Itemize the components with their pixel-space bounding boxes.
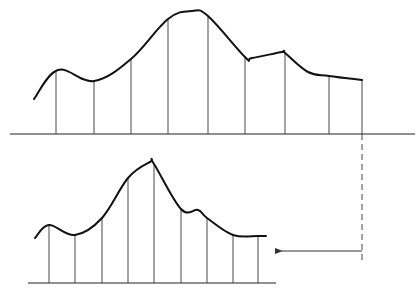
top-graph	[10, 10, 415, 134]
bottom-ordinates	[49, 164, 258, 283]
compression-diagram	[0, 0, 419, 291]
connector	[282, 134, 362, 262]
bottom-curve	[35, 159, 266, 238]
bottom-graph	[28, 159, 276, 283]
top-curve	[34, 10, 362, 99]
